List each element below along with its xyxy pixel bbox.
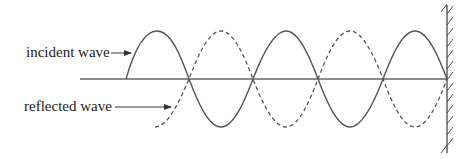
reflected-wave-label: reflected wave: [24, 98, 112, 114]
incident-wave-label: incident wave: [26, 44, 110, 60]
standing-wave-diagram: incident wave reflected wave: [0, 0, 476, 159]
